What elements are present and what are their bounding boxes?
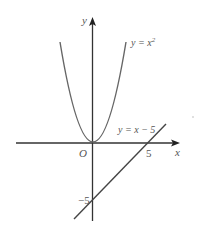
y-axis-label: y bbox=[81, 14, 87, 26]
line-label: y = x − 5 bbox=[117, 124, 155, 135]
parabola-label: y = x2 bbox=[130, 36, 156, 48]
stray-mark bbox=[192, 116, 193, 117]
x-tick-label: 5 bbox=[146, 147, 152, 159]
diagram-canvas: y x O 5 −5 y = x2 y = x − 5 bbox=[0, 0, 197, 231]
x-axis-label: x bbox=[174, 146, 180, 158]
origin-label: O bbox=[79, 147, 87, 159]
y-tick-label: −5 bbox=[78, 194, 90, 206]
